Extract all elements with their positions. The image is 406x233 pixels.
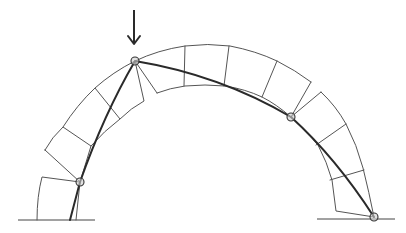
hinge-crown	[131, 57, 139, 65]
middle-extrados	[135, 45, 311, 83]
left-arch-segment	[37, 61, 144, 220]
right-intrados	[291, 117, 374, 217]
right-joint-1	[316, 124, 346, 145]
middle-joint-1	[184, 46, 185, 86]
right-haunch-opening-joint	[291, 92, 321, 117]
voussoir-left-2	[45, 127, 91, 182]
middle-joint-right-end	[291, 82, 311, 117]
hinge-right-haunch	[287, 113, 295, 121]
middle-joint-3	[262, 61, 277, 97]
middle-arch-segment	[135, 45, 311, 118]
thrust-line	[70, 61, 374, 220]
hinge-left-support	[76, 178, 84, 186]
middle-joint-2	[224, 46, 229, 86]
voussoir-left-3	[63, 88, 120, 146]
load-arrow-icon	[128, 10, 140, 44]
middle-intrados	[157, 85, 291, 117]
voussoir-left-base	[37, 177, 80, 220]
hinge-right-support	[370, 213, 378, 221]
arch-collapse-diagram	[0, 0, 406, 233]
right-extrados	[321, 92, 374, 217]
